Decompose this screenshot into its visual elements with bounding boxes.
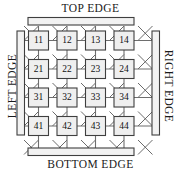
left-edge-label: LEFT EDGE (6, 31, 18, 141)
node-label-43: 43 (85, 122, 107, 132)
top-edge-label: TOP EDGE (0, 2, 181, 14)
diagram-svg (0, 0, 181, 176)
node-label-13: 13 (85, 36, 107, 46)
left-edge-bar (17, 31, 25, 135)
node-label-41: 41 (28, 122, 50, 132)
node-label-21: 21 (28, 65, 50, 75)
node-label-12: 12 (56, 36, 78, 46)
right-edge-label: RIGHT EDGE (163, 31, 175, 141)
node-label-22: 22 (56, 65, 78, 75)
top-edge-bar (28, 18, 134, 26)
diagram-canvas: TOP EDGE BOTTOM EDGE LEFT EDGE RIGHT EDG… (0, 0, 181, 176)
bottom-edge-label: BOTTOM EDGE (0, 158, 181, 170)
node-label-42: 42 (56, 122, 78, 132)
node-label-31: 31 (28, 93, 50, 103)
node-label-32: 32 (56, 93, 78, 103)
node-label-34: 34 (113, 93, 135, 103)
node-label-44: 44 (113, 122, 135, 132)
bottom-edge-bar (28, 148, 134, 156)
node-label-11: 11 (28, 36, 50, 46)
node-label-33: 33 (85, 93, 107, 103)
right-edge-bar (152, 31, 160, 135)
node-label-24: 24 (113, 65, 135, 75)
node-label-23: 23 (85, 65, 107, 75)
node-label-14: 14 (113, 36, 135, 46)
